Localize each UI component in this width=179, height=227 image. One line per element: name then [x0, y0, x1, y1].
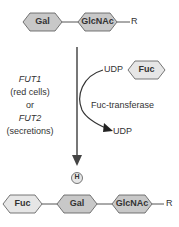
glcnac-label-bottom: GlcNAc — [112, 198, 152, 208]
r-label-bottom: R — [166, 198, 173, 208]
udp-out-label: UDP — [113, 126, 132, 136]
fut2-label: FUT2 — [4, 113, 56, 123]
fuc-label-bottom: Fuc — [3, 198, 42, 208]
fuc-transferase-label: Fuc-transferase — [91, 100, 154, 110]
gal-label-bottom: Gal — [57, 198, 97, 208]
fuc-label-donor: Fuc — [128, 64, 165, 74]
udp-in-label: UDP — [104, 64, 123, 74]
fut1-label: FUT1 — [4, 74, 56, 84]
gal-label-top: Gal — [23, 16, 62, 26]
secretions-label: (secretions) — [4, 126, 56, 136]
h-antigen-label: H — [71, 173, 83, 180]
red-cells-label: (red cells) — [4, 87, 56, 97]
or-label: or — [4, 100, 56, 110]
r-label-top: R — [131, 16, 138, 26]
glcnac-label-top: GlcNAc — [78, 16, 117, 26]
